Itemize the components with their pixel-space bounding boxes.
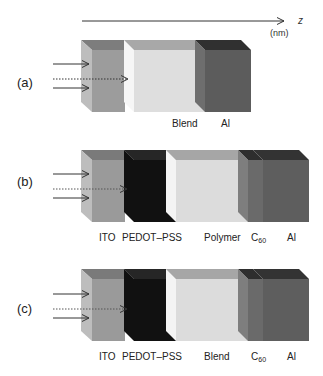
layer-c-blend [166, 269, 248, 341]
layer-label-b-pedot-pss: PEDOT–PSS [122, 232, 182, 243]
device-stack-diagram: z (nm) (a) Blend Al [0, 0, 323, 376]
layer-label-c-pedot-pss: PEDOT–PSS [122, 351, 182, 362]
layer-label-b-polymer: Polymer [204, 232, 241, 243]
layer-label-c-al: Al [287, 351, 296, 362]
layer-label-b-ito: ITO [99, 232, 116, 243]
layer-b-c60 [238, 150, 263, 222]
panel-b: (b) [17, 150, 309, 244]
layer-a-blend [124, 40, 205, 112]
layer-label-b-c60: C60 [251, 232, 266, 244]
panel-c: (c) ITO [17, 269, 309, 363]
layer-label-c-c60: C60 [251, 351, 266, 363]
layer-c-c60 [238, 269, 263, 341]
layer-label-a-blend: Blend [172, 118, 198, 129]
layer-b-polymer [166, 150, 248, 222]
panel-label-c: (c) [17, 301, 32, 316]
panel-label-b: (b) [17, 174, 33, 189]
layer-a-al [195, 40, 251, 112]
layer-label-c-blend: Blend [204, 351, 230, 362]
panel-label-a: (a) [17, 75, 33, 90]
z-axis-label: z [297, 15, 303, 26]
z-axis: z (nm) [82, 15, 303, 38]
panel-a: (a) Blend Al [17, 40, 251, 129]
layer-label-c-ito: ITO [99, 351, 116, 362]
layer-label-b-al: Al [287, 232, 296, 243]
z-axis-unit: (nm) [270, 28, 289, 38]
layer-label-a-al: Al [221, 118, 230, 129]
